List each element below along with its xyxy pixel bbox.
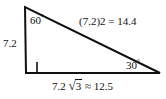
degree-icon: ° [41,13,44,21]
side-label-bottom-leg: 7.2 √3 ≈ 12.5 [52,79,113,92]
angle-top-value: 60 [30,14,41,26]
side-label-hypotenuse: (7.2)2 = 14.4 [79,16,137,27]
angle-right-value: 30 [126,59,137,71]
bottom-result-value: 12.5 [94,80,113,92]
angle-label-bottom-right-30: 30° [126,59,140,71]
bottom-coefficient: 7.2 [52,80,66,92]
right-angle-square-icon [26,62,37,73]
angle-label-top-60: 60° [30,14,44,26]
radical-group: √3 [69,79,83,92]
triangle-figure: 60° 30° 7.2 (7.2)2 = 14.4 7.2 √3 ≈ 12.5 [0,0,166,99]
side-label-left-leg: 7.2 [3,38,17,49]
degree-icon: ° [137,58,140,66]
